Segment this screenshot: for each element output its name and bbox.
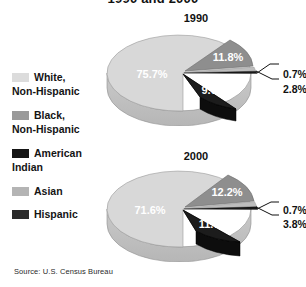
pie-chart-1990: 75.7% 11.8% 9.0% bbox=[104, 26, 279, 126]
pie-1990-callout-asian: 2.8% bbox=[283, 83, 306, 95]
chart-title-2000: 2000 bbox=[96, 150, 296, 162]
legend-item-black-non-hispanic[interactable]: Black, Non-Hispanic bbox=[12, 108, 100, 135]
legend-label-american-indian-line1: American bbox=[34, 147, 82, 159]
legend-label-american-indian-line2: Indian bbox=[12, 161, 43, 173]
legend-label-white-non-hispanic-line1: White, bbox=[34, 71, 66, 83]
legend-item-asian[interactable]: Asian bbox=[12, 184, 100, 198]
legend-item-american-indian[interactable]: American Indian bbox=[12, 146, 100, 173]
pie-2000-label-black: 12.2% bbox=[211, 186, 242, 198]
pie-2000-callout-american-indian: 0.7% bbox=[283, 204, 306, 216]
chart-page: 1990 and 2000 White, Non-Hispanic Black,… bbox=[0, 0, 306, 287]
source-note: Source: U.S. Census Bureau bbox=[14, 267, 113, 276]
pie-2000-svg: 71.6% 12.2% 11.7% bbox=[104, 162, 279, 262]
pie-1990-label-hispanic: 9.0% bbox=[201, 84, 226, 96]
pie-1990-svg: 75.7% 11.8% 9.0% bbox=[104, 26, 279, 126]
legend-swatch-icon-asian bbox=[12, 187, 29, 196]
legend-label-asian: Asian bbox=[34, 185, 63, 197]
legend-label-black-non-hispanic-line1: Black, bbox=[34, 109, 65, 121]
pie-1990-label-white: 75.7% bbox=[136, 68, 167, 80]
legend-label-white-non-hispanic-line2: Non-Hispanic bbox=[12, 85, 80, 97]
legend-swatch-icon-american-indian bbox=[12, 149, 29, 158]
pie-2000-label-hispanic: 11.7% bbox=[199, 218, 230, 230]
pie-2000-label-white: 71.6% bbox=[134, 204, 165, 216]
main-title: 1990 and 2000 bbox=[0, 0, 306, 6]
pie-chart-2000: 71.6% 12.2% 11.7% bbox=[104, 162, 279, 262]
pie-2000-callout-asian: 3.8% bbox=[283, 218, 306, 230]
legend-swatch-icon-white-non-hispanic bbox=[12, 73, 29, 82]
legend-item-hispanic[interactable]: Hispanic bbox=[12, 207, 100, 221]
legend-label-black-non-hispanic-line2: Non-Hispanic bbox=[12, 123, 80, 135]
pie-2000-leader-line-a bbox=[257, 202, 271, 209]
legend: White, Non-Hispanic Black, Non-Hispanic … bbox=[12, 70, 100, 227]
pie-1990-leader-line-b bbox=[256, 71, 272, 79]
pie-1990-leader-line-a bbox=[257, 64, 270, 73]
legend-swatch-icon-hispanic bbox=[12, 210, 29, 219]
legend-item-white-non-hispanic[interactable]: White, Non-Hispanic bbox=[12, 70, 100, 97]
legend-swatch-icon-black-non-hispanic bbox=[12, 111, 29, 120]
pie-1990-callout-american-indian: 0.7% bbox=[283, 68, 306, 80]
chart-title-1990: 1990 bbox=[96, 12, 296, 24]
pie-2000-leader-line-b bbox=[256, 207, 272, 215]
pie-1990-label-black: 11.8% bbox=[213, 51, 244, 63]
legend-label-hispanic: Hispanic bbox=[34, 208, 78, 220]
